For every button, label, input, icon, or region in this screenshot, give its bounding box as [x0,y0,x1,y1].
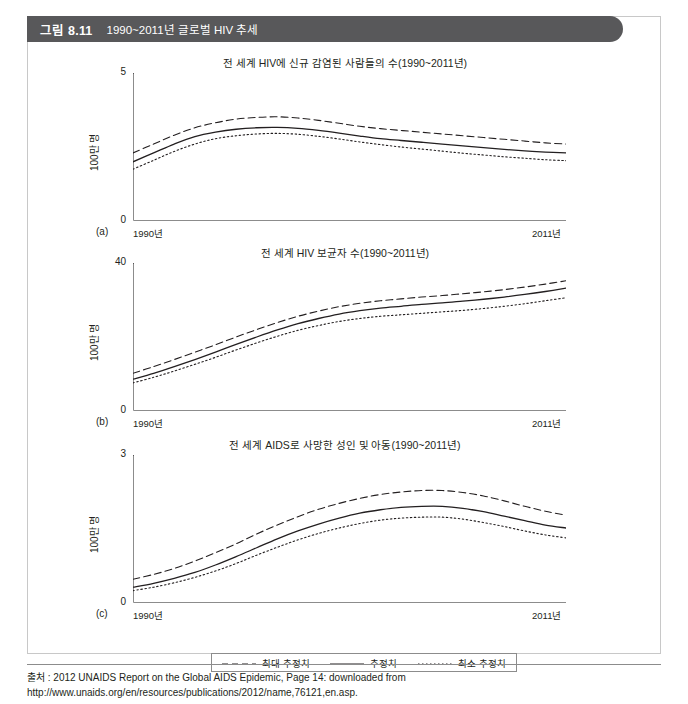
legend-label-estimate: 추정치 [370,656,397,670]
legend-item-min: 최소 추정치 [418,656,506,670]
series-line-solid [133,288,566,379]
xtick-label-end: 2011년 [532,416,561,430]
legend-label-max: 최대 추정치 [262,656,310,670]
series-line-dotted [133,298,566,383]
y-axis-label: 100만 명 [86,134,101,171]
ytick-label-max: 40 [96,256,126,267]
legend-label-min: 최소 추정치 [458,656,506,670]
xtick-label-end: 2011년 [532,608,561,622]
axis-lines [134,263,567,411]
axis-lines [134,73,567,221]
plot-area [133,263,566,411]
series-line-dashed [133,281,566,374]
legend-swatch-dotted [418,659,452,667]
figure-banner: 그림 8.11 1990~2011년 글로벌 HIV 추세 [27,16,623,42]
series-line-solid [133,127,566,161]
figure-number: 그림 8.11 [40,20,93,39]
ytick-label-min: 0 [96,596,126,607]
figure-caption: 1990~2011년 글로벌 HIV 추세 [107,21,259,37]
series-line-solid [133,506,566,587]
panel-letter: (a) [96,226,108,237]
figure-box: 그림 8.11 1990~2011년 글로벌 HIV 추세 전 세계 HIV에 … [27,16,661,654]
xtick-label-start: 1990년 [133,416,163,430]
xtick-label-start: 1990년 [133,226,163,240]
plot-area [133,73,566,221]
figure-page: 그림 8.11 1990~2011년 글로벌 HIV 추세 전 세계 HIV에 … [0,0,688,704]
panel-letter: (c) [96,608,108,619]
axis-lines [134,455,567,603]
plot-area [133,455,566,603]
legend-swatch-solid [330,659,364,667]
source-divider [27,664,661,665]
source-note: 출처 : 2012 UNAIDS Report on the Global AI… [27,670,675,700]
y-axis-label: 100만 명 [86,516,101,553]
panel-letter: (b) [96,416,108,427]
legend-item-max: 최대 추정치 [222,656,310,670]
series-line-dashed [133,490,566,579]
y-axis-label: 100만 명 [86,324,101,361]
ytick-label-min: 0 [96,404,126,415]
ytick-label-min: 0 [96,214,126,225]
legend-swatch-dashed [222,659,256,667]
xtick-label-end: 2011년 [532,226,561,240]
ytick-label-max: 3 [96,448,126,459]
legend-item-estimate: 추정치 [330,656,397,670]
ytick-label-max: 5 [96,66,126,77]
series-line-dotted [133,517,566,591]
xtick-label-start: 1990년 [133,608,163,622]
